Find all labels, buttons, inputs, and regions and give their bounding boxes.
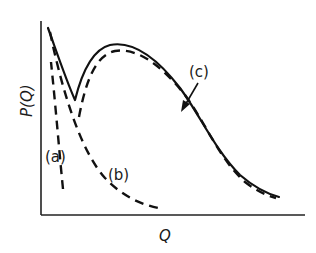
curve-b [50, 32, 158, 208]
probability-distribution-diagram: (a) (b) (c) P(Q) Q [0, 0, 316, 253]
curve-c-pointer-arrow [181, 83, 198, 112]
label-b: (b) [108, 166, 129, 184]
x-axis-label: Q [159, 227, 171, 245]
y-axis-label: P(Q) [18, 84, 36, 117]
axes [41, 21, 305, 215]
label-a: (a) [45, 148, 66, 166]
label-c: (c) [189, 63, 209, 81]
curve-c [48, 28, 279, 197]
